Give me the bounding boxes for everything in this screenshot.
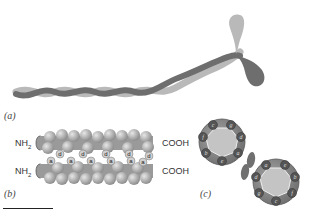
svg-text:d: d xyxy=(104,151,107,157)
svg-text:a: a xyxy=(265,162,268,168)
svg-text:d: d xyxy=(147,153,150,159)
svg-text:d: d xyxy=(127,151,130,157)
svg-text:b: b xyxy=(294,174,297,180)
helical-wheel-2: aedbgfc xyxy=(252,159,300,206)
svg-text:b: b xyxy=(205,150,208,156)
svg-text:g: g xyxy=(230,122,233,128)
svg-text:c: c xyxy=(275,198,278,204)
c-terminus-bottom: COOH xyxy=(162,166,189,176)
footnote-rule xyxy=(3,208,53,209)
helical-wheel-1: cgfdbae xyxy=(199,119,246,166)
coiled-coil-diagram: ddddd aaaaaa cgfdbae aedbgfc xyxy=(0,0,311,212)
svg-text:a: a xyxy=(237,150,240,156)
svg-text:g: g xyxy=(258,190,261,196)
coiled-coil-strands xyxy=(16,15,264,96)
helix-packing-side-view: ddddd aaaaaa xyxy=(36,129,154,185)
n-terminus-top: NH2 xyxy=(15,138,31,150)
panel-label-c: (c) xyxy=(200,188,211,199)
svg-text:c: c xyxy=(212,122,215,128)
svg-text:d: d xyxy=(81,151,84,157)
n-terminus-bottom: NH2 xyxy=(15,166,31,178)
svg-text:e: e xyxy=(221,158,224,164)
svg-text:d: d xyxy=(58,151,61,157)
panel-label-b: (b) xyxy=(4,188,16,199)
svg-text:e: e xyxy=(284,162,287,168)
c-terminus-top: COOH xyxy=(162,138,189,148)
panel-label-a: (a) xyxy=(4,110,16,121)
